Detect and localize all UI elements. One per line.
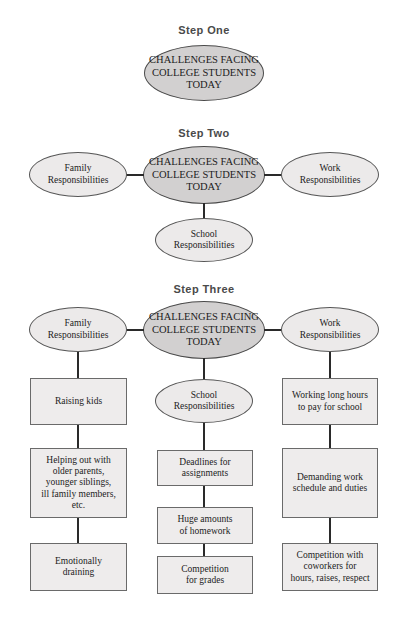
step-three-right-heading-oval: Work Responsibilities xyxy=(281,307,379,352)
step-one-central-text: CHALLENGES FACING COLLEGE STUDENTS TODAY xyxy=(145,54,263,92)
step-two-central-oval: CHALLENGES FACING COLLEGE STUDENTS TODAY xyxy=(143,146,265,204)
step-two-branch-left-text: Family Responsibilities xyxy=(30,163,126,185)
connector-center-3 xyxy=(203,544,205,556)
step-three-central-text: CHALLENGES FACING COLLEGE STUDENTS TODAY xyxy=(144,311,264,349)
step-three-left-heading-text: Family Responsibilities xyxy=(30,318,126,340)
step-three-left-item-2: Helping out with older parents, younger … xyxy=(30,448,127,518)
step-three-right-heading-text: Work Responsibilities xyxy=(282,318,378,340)
connector-left-3 xyxy=(77,518,79,543)
step-three-center-heading-text: School Responsibilities xyxy=(156,390,252,412)
step-three-right-item-2: Demanding work schedule and duties xyxy=(282,448,378,518)
connector-right-1 xyxy=(329,352,331,378)
step-three-left-item-1-text: Raising kids xyxy=(31,396,126,407)
connector-left-1 xyxy=(77,352,79,378)
connector-center-2 xyxy=(203,486,205,507)
connector-step-two-left xyxy=(126,174,144,176)
step-three-right-item-1-text: Working long hours to pay for school xyxy=(283,390,377,412)
step-three-center-item-3: Competition for grades xyxy=(157,556,253,594)
connector-step-two-bottom xyxy=(203,203,205,219)
step-three-left-heading-oval: Family Responsibilities xyxy=(29,307,127,352)
step-three-right-item-3: Competition with coworkers for hours, ra… xyxy=(282,543,378,591)
connector-right-3 xyxy=(329,518,331,543)
step-two-label: Step Two xyxy=(178,127,229,139)
clustering-diagram: Step One CHALLENGES FACING COLLEGE STUDE… xyxy=(0,0,407,619)
step-one-label: Step One xyxy=(178,24,230,36)
step-three-left-item-1: Raising kids xyxy=(30,378,127,425)
step-two-branch-left-oval: Family Responsibilities xyxy=(29,152,127,197)
step-three-left-item-3-text: Emotionally draining xyxy=(31,556,126,578)
step-three-central-oval: CHALLENGES FACING COLLEGE STUDENTS TODAY xyxy=(143,301,265,359)
step-two-central-text: CHALLENGES FACING COLLEGE STUDENTS TODAY xyxy=(144,156,264,194)
step-two-branch-bottom-oval: School Responsibilities xyxy=(155,218,253,262)
step-three-center-heading-oval: School Responsibilities xyxy=(155,379,253,423)
connector-step-three-right xyxy=(264,329,282,331)
connector-center-0 xyxy=(203,358,205,380)
step-two-branch-right-text: Work Responsibilities xyxy=(282,163,378,185)
step-two-branch-bottom-text: School Responsibilities xyxy=(156,229,252,251)
step-three-left-item-2-text: Helping out with older parents, younger … xyxy=(31,455,126,511)
step-three-right-item-2-text: Demanding work schedule and duties xyxy=(283,472,377,494)
step-three-label: Step Three xyxy=(174,283,235,295)
step-three-center-item-1: Deadlines for assignments xyxy=(157,450,253,486)
connector-center-1 xyxy=(203,423,205,450)
step-three-left-item-3: Emotionally draining xyxy=(30,543,127,591)
step-three-right-item-3-text: Competition with coworkers for hours, ra… xyxy=(283,550,377,584)
connector-step-three-left xyxy=(126,329,144,331)
step-three-center-item-2-text: Huge amounts of homework xyxy=(158,514,252,536)
step-three-center-item-1-text: Deadlines for assignments xyxy=(158,457,252,479)
connector-right-2 xyxy=(329,425,331,448)
connector-step-two-right xyxy=(264,174,282,176)
step-two-branch-right-oval: Work Responsibilities xyxy=(281,152,379,197)
step-three-center-item-3-text: Competition for grades xyxy=(158,564,252,586)
step-one-central-oval: CHALLENGES FACING COLLEGE STUDENTS TODAY xyxy=(144,45,264,101)
step-three-center-item-2: Huge amounts of homework xyxy=(157,507,253,544)
connector-left-2 xyxy=(77,425,79,448)
step-three-right-item-1: Working long hours to pay for school xyxy=(282,378,378,425)
